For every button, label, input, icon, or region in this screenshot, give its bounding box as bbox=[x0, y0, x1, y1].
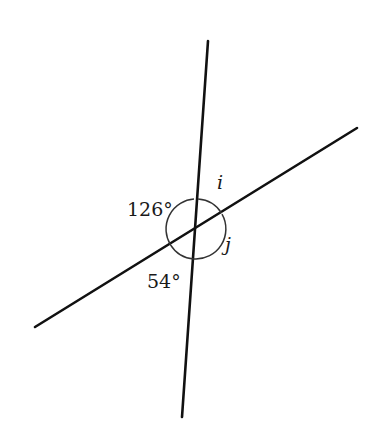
arc-j bbox=[194, 214, 226, 259]
oblique-line bbox=[35, 128, 357, 327]
diagram-canvas: 126° i j 54° bbox=[0, 0, 376, 443]
label-126: 126° bbox=[127, 198, 173, 220]
diagram-svg: 126° i j 54° bbox=[0, 0, 376, 443]
arc-i bbox=[198, 199, 221, 213]
label-i: i bbox=[217, 171, 223, 193]
arc-54 bbox=[171, 245, 194, 259]
label-54: 54° bbox=[147, 270, 181, 292]
